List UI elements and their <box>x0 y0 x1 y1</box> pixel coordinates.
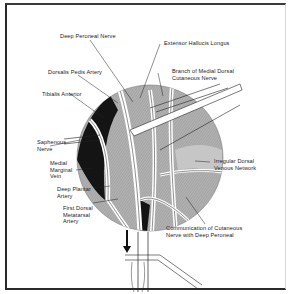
label-branch-medial-dorsal-cutaneous-nerve: Branch of Medial DorsalCutaneous Nerve <box>172 68 234 81</box>
label-deep-peroneal-nerve: Deep Peroneal Nerve <box>60 33 116 40</box>
label-tibialis-anterior: Tibialis Anterior <box>42 91 82 98</box>
label-communication-cutaneous-deep-peroneal: Communication of CutaneousNerve with Dee… <box>166 225 242 238</box>
label-dorsalis-pedis-artery: Dorsalis Pedis Artery <box>48 69 102 76</box>
label-medial-marginal-vein: MedialMarginalVein <box>50 160 72 180</box>
label-first-dorsal-metatarsal-artery: First DorsalMetatarsalArtery <box>63 205 93 225</box>
label-extensor-hallucis-longus: Extensor Hallucis Longus <box>164 40 230 47</box>
label-deep-plantar-artery: Deep PlantarArtery <box>57 186 91 199</box>
label-saphenous-nerve: SaphenousNerve <box>37 139 66 152</box>
label-irregular-dorsal-venous-network: Irregular DorsalVenous Network <box>214 158 256 171</box>
